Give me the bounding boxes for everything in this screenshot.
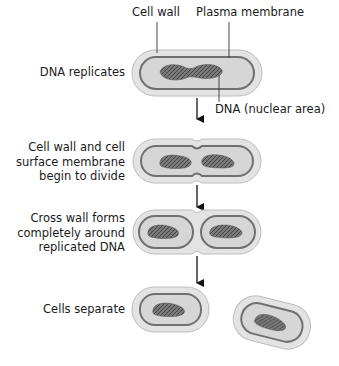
step-4-line-1: Cells separate [43,302,125,316]
step-1-line-1: DNA replicates [40,65,125,79]
step-2-line-1: Cell wall and cell [16,140,125,155]
step-3-label: Cross wall forms completely around repli… [17,211,125,255]
step-3-line-1: Cross wall forms [17,211,125,226]
daughter-cell-left [132,287,209,332]
plasma-membrane-label: Plasma membrane [196,5,304,19]
step-3-line-2: completely around [17,226,125,241]
step-2-label: Cell wall and cell surface membrane begi… [16,140,125,184]
step-2-line-3: begin to divide [16,169,125,184]
cell-wall-label: Cell wall [132,5,180,19]
step-2-line-2: surface membrane [16,155,125,170]
cell-cross-wall-formed [133,210,261,254]
cell-dna-replicating [132,22,262,102]
cell-beginning-division [133,139,261,183]
daughter-cell-right [229,291,316,354]
step-3-line-3: replicated DNA [17,240,125,255]
step-4-label: Cells separate [43,302,125,316]
step-1-label: DNA replicates [40,65,125,79]
dna-nuclear-area-label: DNA (nuclear area) [215,102,325,116]
